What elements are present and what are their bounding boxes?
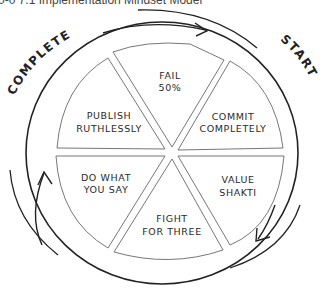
segment-top-left [57,58,165,149]
segment-label-commit-2: COMPLETELY [200,123,267,134]
segment-label-publish: PUBLISH [87,110,132,121]
segment-label-fight-2: FOR THREE [142,226,202,237]
segment-label-commit: COMMIT [212,111,255,122]
segment-label-publish-2: RUTHLESSLY [76,123,142,134]
segment-label-fight: FIGHT [156,213,188,224]
segment-label-fail: FAIL [159,70,181,81]
segment-label-do-what-2: YOU SAY [83,184,129,195]
segment-label-fail-2: 50% [159,82,182,93]
cycle-label-complete: COMPLETE [4,27,73,97]
outer-cycle-ring [26,22,298,284]
segment-label-value-2: SHAKTI [219,187,256,198]
outer-arc-bottom-right [230,205,300,268]
arrow-bottom-right-icon [256,205,275,241]
segment-top-right [178,61,283,150]
segment-label-do-what: DO WHAT [81,172,131,183]
cycle-label-start: START [278,32,320,80]
mindset-wheel-diagram: FAIL 50% COMMIT COMPLETELY VALUE SHAKTI … [0,0,325,295]
segment-label-value: VALUE [221,174,254,185]
